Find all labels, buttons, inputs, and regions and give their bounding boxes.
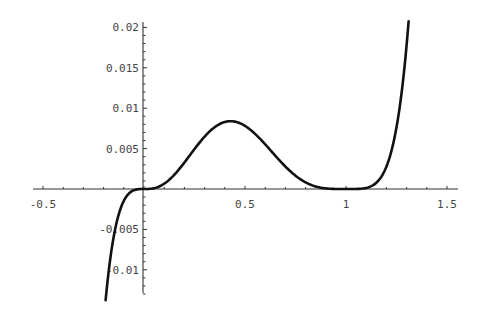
y-tick-label: -0.005 bbox=[99, 223, 139, 236]
y-tick-label: -0.01 bbox=[106, 264, 139, 277]
y-tick-label: 0.02 bbox=[113, 21, 140, 34]
y-tick-label: 0.015 bbox=[106, 62, 139, 75]
y-tick-label: 0.005 bbox=[106, 143, 139, 156]
axis-ticks bbox=[43, 27, 447, 294]
x-tick-label: 1.5 bbox=[437, 198, 457, 211]
y-tick-label: 0.01 bbox=[113, 102, 140, 115]
x-tick-label: -0.5 bbox=[30, 198, 57, 211]
x-tick-label: 1 bbox=[343, 198, 350, 211]
x-tick-label: 0.5 bbox=[235, 198, 255, 211]
axes bbox=[33, 22, 458, 293]
data-curve bbox=[106, 21, 409, 300]
line-chart: -0.50.511.50.020.0150.010.005-0.005-0.01 bbox=[0, 0, 479, 309]
